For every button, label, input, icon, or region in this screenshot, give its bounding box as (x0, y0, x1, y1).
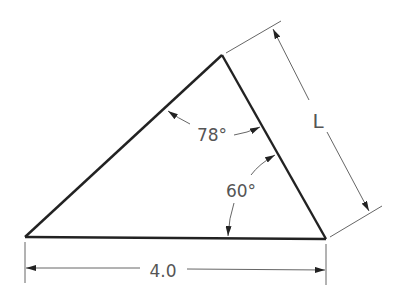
base-dimension: 4.0 (25, 242, 326, 285)
extension-line-bottom (330, 206, 382, 237)
side-dimension: L (226, 21, 382, 237)
angle-top-leader-left (168, 111, 190, 124)
side-left (25, 55, 222, 237)
angle-bottom-label: 60° (226, 181, 256, 201)
angle-top-label: 78° (197, 125, 227, 145)
triangle-outline (25, 55, 326, 239)
extension-line-top (226, 21, 281, 53)
angle-bottom-leader-bottom (228, 203, 234, 236)
side-length-label: L (312, 109, 324, 133)
angle-bottom-annotation: 60° (226, 155, 275, 236)
base-length-label: 4.0 (149, 261, 176, 281)
side-base (25, 237, 326, 239)
dimension-line-upper (273, 29, 309, 100)
angle-bottom-leader-top (251, 155, 275, 175)
triangle-diagram: 4.0 L 78° 60° (0, 0, 405, 302)
dimension-line-right (187, 269, 325, 270)
angle-top-annotation: 78° (168, 111, 260, 145)
side-right (222, 55, 326, 239)
dimension-line-lower (327, 132, 369, 211)
angle-top-leader-right (234, 127, 260, 135)
